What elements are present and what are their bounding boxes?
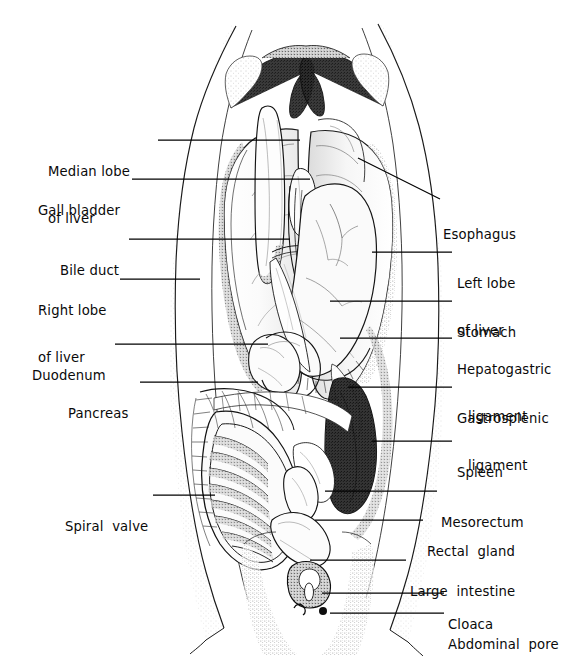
label-line-1: Hepatogastric	[457, 362, 552, 378]
label-line-1: Right lobe	[38, 303, 107, 319]
label-pancreas: Pancreas	[68, 375, 128, 453]
label-line-1: Left lobe	[457, 276, 516, 292]
label-line-1: Abdominal pore	[448, 637, 559, 653]
label-spiral-valve: Spiral valve	[65, 488, 148, 566]
label-line-1: Pancreas	[68, 406, 128, 422]
label-line-1: Esophagus	[443, 227, 516, 243]
label-line-1: Spiral valve	[65, 519, 148, 535]
label-line-1: Spleen	[457, 465, 503, 481]
median-lobe-liver	[255, 106, 285, 284]
label-line-1: Gall bladder	[38, 203, 120, 219]
anatomical-figure: Median lobe of liver Gall bladder Bile d…	[0, 0, 586, 659]
label-abdominal-pore: Abdominal pore	[448, 606, 559, 659]
label-line-1: Gastrosplenic	[457, 411, 549, 427]
